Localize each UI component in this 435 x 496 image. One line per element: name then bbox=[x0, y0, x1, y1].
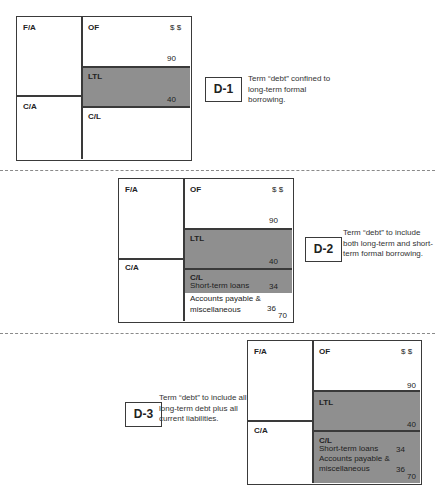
of-ltl-divider bbox=[313, 390, 420, 392]
accounts-payable-label-2: miscellaneous bbox=[190, 305, 241, 315]
fa-ca-divider bbox=[119, 258, 184, 260]
short-term-loans-value: 34 bbox=[396, 445, 405, 454]
ltl-label: LTL bbox=[319, 398, 333, 407]
separator-1 bbox=[0, 170, 435, 171]
cl-total: 70 bbox=[407, 472, 416, 481]
of-value: 90 bbox=[407, 381, 416, 390]
ltl-value: 40 bbox=[167, 95, 176, 104]
short-term-loans-label: Short-term loans bbox=[190, 281, 249, 291]
accounts-payable-value: 36 bbox=[267, 304, 276, 313]
d3-tag: D-3 bbox=[125, 402, 162, 427]
of-label: OF bbox=[190, 185, 201, 194]
fa-label: F/A bbox=[23, 23, 36, 32]
separator-2 bbox=[0, 333, 435, 334]
ltl-cl-divider bbox=[313, 430, 420, 432]
of-ltl-divider bbox=[184, 228, 292, 230]
of-ltl-divider bbox=[82, 66, 190, 68]
balance-sheet-d2: F/A C/A OF $ $ 90 LTL 40 C/L Short-term … bbox=[118, 178, 294, 323]
fa-ca-divider bbox=[17, 95, 82, 97]
column-divider bbox=[81, 17, 83, 159]
of-value: 90 bbox=[167, 54, 176, 63]
d3-description: Term “debt” to include all long-term deb… bbox=[159, 393, 247, 425]
ltl-label: LTL bbox=[88, 72, 102, 81]
d1-description: Term “debt” confined to long-term formal… bbox=[248, 74, 338, 106]
balance-sheet-d1: F/A C/A OF $ $ 90 LTL 40 C/L bbox=[16, 16, 192, 161]
ltl-value: 40 bbox=[407, 420, 416, 429]
accounts-payable-label: Accounts payable & bbox=[319, 454, 390, 464]
accounts-payable-value: 36 bbox=[396, 465, 405, 474]
ltl-block bbox=[313, 391, 420, 431]
d2-description: Term “debt” to include both long-term an… bbox=[343, 228, 435, 260]
of-label: OF bbox=[319, 347, 330, 356]
accounts-payable-label: Accounts payable & bbox=[190, 294, 261, 304]
balance-sheet-d3: F/A C/A OF $ $ 90 LTL 40 C/L Short-term … bbox=[247, 340, 422, 485]
cl-total: 70 bbox=[278, 311, 287, 320]
ltl-cl-divider bbox=[184, 268, 292, 270]
fa-label: F/A bbox=[125, 185, 138, 194]
accounts-payable-label-2: miscellaneous bbox=[319, 464, 370, 474]
cl-label: C/L bbox=[88, 112, 101, 121]
ca-label: C/A bbox=[254, 426, 268, 435]
currency-label: $ $ bbox=[401, 347, 412, 356]
d1-tag: D-1 bbox=[205, 77, 242, 102]
column-divider bbox=[183, 179, 185, 321]
currency-label: $ $ bbox=[272, 185, 283, 194]
fa-ca-divider bbox=[248, 420, 313, 422]
ca-label: C/A bbox=[23, 102, 37, 111]
ltl-value: 40 bbox=[269, 257, 278, 266]
of-value: 90 bbox=[269, 216, 278, 225]
ltl-label: LTL bbox=[190, 234, 204, 243]
d2-tag: D-2 bbox=[305, 237, 342, 262]
ltl-cl-divider bbox=[82, 106, 190, 108]
currency-label: $ $ bbox=[170, 23, 181, 32]
short-term-loans-label: Short-term loans bbox=[319, 444, 378, 454]
short-term-loans-value: 34 bbox=[269, 282, 278, 291]
fa-label: F/A bbox=[254, 347, 267, 356]
column-divider bbox=[312, 341, 314, 483]
ca-label: C/A bbox=[125, 263, 139, 272]
of-label: OF bbox=[88, 23, 99, 32]
